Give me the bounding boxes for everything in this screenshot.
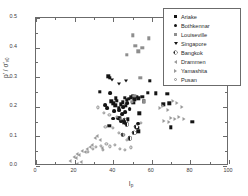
data-point-drammen	[76, 152, 79, 156]
data-point-yamashita	[175, 101, 178, 105]
data-point-ariake	[136, 126, 139, 129]
x-tick	[55, 18, 56, 20]
data-point-pusan	[91, 147, 94, 150]
data-point-ariake	[122, 121, 125, 124]
x-tick	[94, 18, 95, 20]
legend-label: Pusan	[181, 77, 197, 83]
data-point-ariake	[98, 90, 101, 93]
data-point-louiseville	[140, 46, 143, 49]
legend-item-yamashita[interactable]: Yamashita	[164, 66, 240, 75]
data-point-drammen	[80, 160, 83, 164]
data-point-louiseville	[142, 99, 145, 102]
marker-glyph	[174, 69, 177, 73]
data-point-yamashita	[170, 116, 173, 120]
legend-label: Singapore	[181, 41, 207, 47]
data-point-ariake	[137, 130, 140, 133]
y-tick	[36, 48, 40, 49]
data-point-ariake	[127, 97, 130, 100]
data-point-yamashita	[162, 104, 165, 108]
data-point-louiseville	[130, 100, 133, 103]
data-point-ariake	[132, 101, 135, 104]
legend-label: Bangkok	[181, 50, 203, 56]
legend-item-singapore[interactable]: Singapore	[164, 39, 240, 48]
y-tick	[36, 92, 38, 93]
data-point-louiseville	[131, 34, 134, 37]
marker-glyph	[174, 24, 178, 28]
data-point-yamashita	[168, 120, 171, 124]
data-point-drammen	[81, 149, 84, 153]
data-point-pusan	[123, 148, 126, 151]
data-point-ariake	[123, 96, 126, 99]
y-tick-label: 0.4	[10, 44, 18, 49]
legend-item-ariake[interactable]: Ariake	[164, 12, 240, 21]
legend-marker-icon	[170, 24, 181, 28]
data-point-drammen	[98, 138, 101, 142]
data-point-pusan	[114, 143, 117, 146]
x-tick	[75, 18, 76, 22]
legend-item-bangkok[interactable]: Bangkok	[164, 48, 240, 57]
data-point-bothkennar	[128, 107, 132, 111]
data-point-pusan	[129, 146, 132, 149]
data-point-bothkennar	[136, 122, 140, 126]
data-point-ariake	[118, 117, 121, 120]
data-point-bothkennar	[111, 117, 115, 121]
data-point-ariake	[138, 112, 141, 115]
data-point-ariake	[115, 99, 118, 102]
y-tick	[223, 136, 227, 137]
data-point-louiseville	[139, 76, 142, 79]
data-point-bothkennar	[125, 101, 129, 105]
y-tick	[36, 77, 40, 78]
legend-item-bothkennar[interactable]: Bothkennar	[164, 21, 240, 30]
data-point-ariake	[191, 120, 194, 123]
legend-item-pusan[interactable]: Pusan	[164, 75, 240, 84]
data-point-pusan	[105, 143, 108, 146]
legend-marker-icon	[170, 15, 181, 18]
x-tick-label: 20	[71, 168, 77, 173]
data-point-drammen	[78, 153, 81, 157]
data-point-ariake	[125, 98, 128, 101]
y-tick	[225, 92, 227, 93]
data-point-ariake	[108, 76, 111, 79]
data-point-ariake	[162, 103, 165, 106]
y-tick-label: 0.0	[10, 162, 18, 167]
x-tick-label: 100	[224, 168, 233, 173]
legend-label: Louiseville	[181, 32, 207, 38]
data-point-ariake	[133, 98, 136, 101]
data-point-bangkok	[125, 122, 129, 126]
data-point-ariake	[135, 95, 138, 98]
legend-item-drammen[interactable]: Drammen	[164, 57, 240, 66]
data-point-pusan	[102, 112, 105, 115]
data-point-ariake	[142, 99, 145, 102]
y-tick	[36, 151, 38, 152]
data-point-drammen	[84, 150, 87, 154]
x-tick	[113, 160, 114, 164]
legend-marker-icon	[170, 42, 181, 45]
data-point-ariake	[167, 102, 170, 105]
y-tick	[36, 18, 38, 19]
data-point-ariake	[110, 99, 113, 102]
x-tick	[229, 160, 230, 164]
data-point-ariake	[111, 102, 114, 105]
data-point-yamashita	[182, 117, 185, 121]
data-point-yamashita	[180, 105, 183, 109]
data-point-yamashita	[172, 99, 175, 103]
y-tick	[36, 33, 38, 34]
data-point-yamashita	[159, 106, 162, 110]
data-point-pusan	[99, 144, 102, 147]
x-tick	[133, 162, 134, 164]
data-point-yamashita	[173, 117, 176, 121]
y-tick	[36, 107, 40, 108]
data-point-ariake	[146, 91, 149, 94]
legend-marker-icon	[170, 51, 181, 55]
x-tick-label: 0	[34, 168, 37, 173]
marker-glyph	[174, 60, 177, 64]
y-tick	[36, 166, 40, 167]
legend-item-louiseville[interactable]: Louiseville	[164, 30, 240, 39]
data-point-ariake	[124, 104, 127, 107]
data-point-bangkok	[124, 120, 128, 124]
data-point-ariake	[126, 118, 129, 121]
data-point-pusan	[109, 145, 112, 148]
x-tick	[171, 162, 172, 164]
x-tick	[75, 160, 76, 164]
marker-glyph	[174, 51, 178, 55]
